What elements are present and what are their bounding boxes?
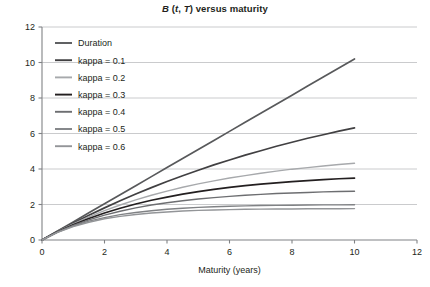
chart-legend: Durationkappa = 0.1kappa = 0.2kappa = 0.… <box>55 38 125 151</box>
svg-text:12: 12 <box>412 247 422 257</box>
legend-label-0: Duration <box>78 38 112 48</box>
svg-text:0: 0 <box>39 247 44 257</box>
legend-label-4: kappa = 0.4 <box>78 107 125 117</box>
legend-label-3: kappa = 0.3 <box>78 90 125 100</box>
svg-text:4: 4 <box>164 247 169 257</box>
legend-label-2: kappa = 0.2 <box>78 73 125 83</box>
svg-text:10: 10 <box>349 247 359 257</box>
plot-area: 024681012 024681012 Durationkappa = 0.1k… <box>0 0 430 287</box>
legend-label-1: kappa = 0.1 <box>78 56 125 66</box>
chart-container: B (t, T) versus maturity 024681012 02468… <box>0 0 430 287</box>
svg-text:6: 6 <box>227 247 232 257</box>
x-tick-labels: 024681012 <box>39 247 422 257</box>
svg-text:10: 10 <box>25 58 35 68</box>
legend-label-6: kappa = 0.6 <box>78 142 125 152</box>
y-tick-labels: 024681012 <box>25 22 35 245</box>
svg-text:2: 2 <box>30 200 35 210</box>
svg-text:12: 12 <box>25 22 35 32</box>
svg-text:6: 6 <box>30 129 35 139</box>
svg-text:4: 4 <box>30 164 35 174</box>
legend-label-5: kappa = 0.5 <box>78 124 125 134</box>
svg-text:0: 0 <box>30 235 35 245</box>
svg-text:8: 8 <box>30 93 35 103</box>
svg-text:8: 8 <box>289 247 294 257</box>
svg-text:2: 2 <box>102 247 107 257</box>
series-line-2 <box>42 163 355 240</box>
x-axis-title: Maturity (years) <box>198 265 261 275</box>
